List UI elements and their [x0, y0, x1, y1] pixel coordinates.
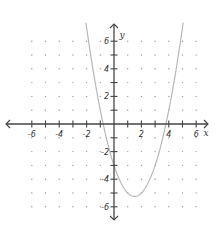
grid-dot	[72, 151, 73, 152]
grid-dot	[168, 151, 169, 152]
tick-labels: -6-4-2246642-2-4-6xy	[28, 30, 209, 212]
grid-dot	[45, 110, 46, 111]
grid-dot	[196, 179, 197, 180]
grid-dot	[59, 41, 60, 42]
grid-dot	[100, 68, 101, 69]
x-axis-label: x	[203, 128, 208, 138]
grid-dot	[59, 82, 60, 83]
grid-dot	[196, 192, 197, 193]
grid-dot	[100, 192, 101, 193]
grid-dot	[182, 41, 183, 42]
x-tick-label: 2	[139, 130, 144, 139]
grid-dot	[72, 192, 73, 193]
grid-dot	[182, 151, 183, 152]
grid-dot	[59, 151, 60, 152]
axes	[6, 24, 208, 220]
grid-dot	[154, 137, 155, 138]
grid-dot	[72, 206, 73, 207]
grid-dot	[45, 179, 46, 180]
grid-dot	[196, 151, 197, 152]
grid-dot	[168, 68, 169, 69]
grid-dot	[182, 68, 183, 69]
grid-dot	[154, 151, 155, 152]
grid-dot	[59, 165, 60, 166]
grid-dot	[141, 68, 142, 69]
grid-dot	[154, 96, 155, 97]
grid-dot	[168, 179, 169, 180]
grid-dot	[127, 54, 128, 55]
grid-dot	[31, 192, 32, 193]
grid-dot	[86, 54, 87, 55]
grid-dot	[154, 82, 155, 83]
grid-dot	[127, 110, 128, 111]
grid-dot	[141, 96, 142, 97]
parabola-line	[86, 23, 183, 197]
grid-dot	[31, 179, 32, 180]
grid-dot	[141, 206, 142, 207]
grid-dot	[182, 82, 183, 83]
x-tick-label: -2	[83, 130, 91, 139]
grid-dot	[127, 96, 128, 97]
grid-dot	[141, 165, 142, 166]
grid-dot	[127, 206, 128, 207]
grid-dot	[182, 165, 183, 166]
grid-dot	[168, 165, 169, 166]
grid-dot	[45, 54, 46, 55]
y-axis-label: y	[118, 30, 125, 40]
grid-dot	[168, 206, 169, 207]
y-tick-label: 2	[104, 92, 109, 101]
grid-dot	[196, 110, 197, 111]
grid-dot	[31, 165, 32, 166]
grid-dot	[45, 151, 46, 152]
grid-dot	[127, 68, 128, 69]
grid-dot	[86, 96, 87, 97]
grid-dot	[141, 82, 142, 83]
grid-dot	[127, 82, 128, 83]
grid-dot	[86, 68, 87, 69]
grid-dot	[59, 179, 60, 180]
grid-dot	[45, 165, 46, 166]
grid-dot	[31, 151, 32, 152]
grid-dot	[72, 54, 73, 55]
grid-dot	[72, 165, 73, 166]
grid-dot	[100, 82, 101, 83]
grid-dot	[86, 179, 87, 180]
grid-dot	[127, 151, 128, 152]
grid-dot	[72, 41, 73, 42]
grid-dot	[86, 82, 87, 83]
grid-dot	[196, 206, 197, 207]
grid-dot	[72, 82, 73, 83]
grid-dot	[154, 192, 155, 193]
grid-dot	[59, 192, 60, 193]
grid-dot	[182, 179, 183, 180]
parabola-curve	[86, 23, 183, 197]
y-tick-label: -2	[101, 148, 109, 157]
grid-dot	[196, 96, 197, 97]
grid-dot	[196, 68, 197, 69]
grid-dot	[141, 54, 142, 55]
grid-dot	[86, 41, 87, 42]
y-tick-label: -4	[101, 175, 109, 184]
x-tick-label: -4	[55, 130, 63, 139]
grid-dot	[127, 179, 128, 180]
grid-dot	[127, 41, 128, 42]
grid-dot	[196, 165, 197, 166]
grid-dot	[59, 206, 60, 207]
grid-dot	[168, 192, 169, 193]
grid-dot	[168, 41, 169, 42]
x-tick-label: -6	[28, 130, 36, 139]
grid-dot	[86, 165, 87, 166]
grid-dot	[127, 137, 128, 138]
grid-dot	[168, 82, 169, 83]
grid-dot	[141, 179, 142, 180]
grid-dot	[154, 110, 155, 111]
y-tick-label: 6	[104, 37, 109, 46]
grid-dot	[31, 68, 32, 69]
grid-dot	[168, 54, 169, 55]
grid-dot	[72, 110, 73, 111]
x-tick-label: 6	[194, 130, 199, 139]
grid-dot	[45, 96, 46, 97]
grid-dot	[141, 41, 142, 42]
grid-dot	[31, 96, 32, 97]
grid-dot	[59, 68, 60, 69]
